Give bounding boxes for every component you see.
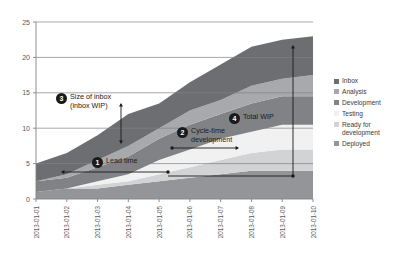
legend-swatch-icon bbox=[334, 79, 339, 84]
x-tick-label-6: 2013-01-07 bbox=[217, 206, 224, 239]
annotation-badge-1: 1 bbox=[92, 157, 103, 168]
legend-swatch-icon bbox=[334, 122, 339, 127]
legend-item-inbox[interactable]: Inbox bbox=[334, 77, 404, 85]
annotation-lead-time: 1 Lead time bbox=[92, 157, 138, 168]
annotation-cycle-time-development: 2 Cycle-time development bbox=[177, 127, 232, 144]
arrow-head-size-of-inbox-top bbox=[119, 103, 123, 106]
legend-item-label: Analysis bbox=[342, 88, 367, 96]
x-tick-label-9: 2013-01-10 bbox=[310, 206, 317, 239]
annotation-size-of-inbox: 3 Size of inbox (inbox WIP) bbox=[56, 93, 111, 110]
x-tick-label-3: 2013-01-04 bbox=[125, 206, 132, 239]
annotation-total-wip: 4 Total WIP bbox=[229, 113, 274, 124]
x-tick-label-1: 2013-01-02 bbox=[63, 206, 70, 239]
legend-item-deployed[interactable]: Deployed bbox=[334, 140, 404, 148]
x-tick-label-7: 2013-01-08 bbox=[248, 206, 255, 239]
legend-item-testing[interactable]: Testing bbox=[334, 110, 404, 118]
annotation-badge-3: 3 bbox=[56, 93, 67, 104]
y-tick-label-15: 15 bbox=[22, 89, 30, 96]
annotation-label-3: Size of inbox (inbox WIP) bbox=[70, 93, 111, 110]
legend-item-development[interactable]: Development bbox=[334, 99, 404, 107]
legend-swatch-icon bbox=[334, 100, 339, 105]
legend-swatch-icon bbox=[334, 141, 339, 146]
legend-item-label: Ready for development bbox=[342, 121, 404, 136]
legend-swatch-icon bbox=[334, 111, 339, 116]
arrow-endpoint-cycle-time-left bbox=[170, 146, 173, 149]
y-tick-label-5: 5 bbox=[26, 160, 30, 167]
annotation-badge-2: 2 bbox=[177, 127, 188, 138]
legend-item-label: Testing bbox=[342, 110, 363, 118]
x-tick-label-2: 2013-01-03 bbox=[94, 206, 101, 239]
legend-item-label: Inbox bbox=[342, 77, 358, 85]
x-axis-ticks: 2013-01-012013-01-022013-01-032013-01-04… bbox=[33, 199, 317, 238]
legend-swatch-icon bbox=[334, 89, 339, 94]
chart-legend: InboxAnalysisDevelopmentTestingReady for… bbox=[334, 77, 404, 151]
annotation-label-2: Cycle-time development bbox=[191, 127, 232, 144]
annotation-label-1: Lead time bbox=[106, 157, 138, 166]
x-tick-label-8: 2013-01-09 bbox=[279, 206, 286, 239]
x-tick-label-4: 2013-01-05 bbox=[156, 206, 163, 239]
annotation-label-4: Total WIP bbox=[243, 113, 274, 122]
legend-item-label: Development bbox=[342, 99, 381, 107]
y-tick-label-10: 10 bbox=[22, 125, 30, 132]
y-axis-ticks: 0510152025 bbox=[22, 19, 36, 203]
y-tick-label-20: 20 bbox=[22, 54, 30, 61]
y-tick-label-0: 0 bbox=[26, 196, 30, 203]
y-tick-label-25: 25 bbox=[22, 19, 30, 26]
legend-item-analysis[interactable]: Analysis bbox=[334, 88, 404, 96]
annotation-badge-4: 4 bbox=[229, 113, 240, 124]
legend-item-ready-for-development[interactable]: Ready for development bbox=[334, 121, 404, 136]
x-tick-label-5: 2013-01-06 bbox=[186, 206, 193, 239]
cumulative-flow-diagram: 0510152025 2013-01-012013-01-022013-01-0… bbox=[0, 0, 406, 266]
arrow-endpoint-lead-time-right bbox=[166, 170, 169, 173]
legend-item-label: Deployed bbox=[342, 140, 370, 148]
x-tick-label-0: 2013-01-01 bbox=[33, 206, 40, 239]
